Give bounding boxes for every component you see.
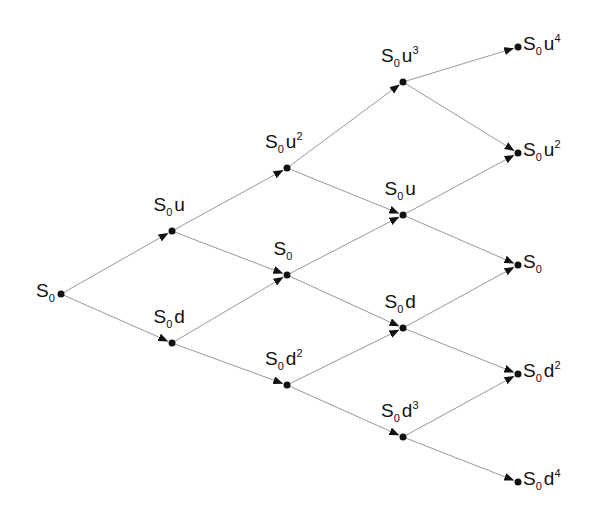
label-subscript: 0 (49, 292, 55, 304)
label-base: S (523, 360, 536, 381)
edge-arrow-n21-n31 (287, 217, 399, 275)
label-base: S (381, 400, 394, 421)
node-label-n44: S0d4 (523, 469, 561, 488)
label-subscript: 0 (397, 303, 403, 315)
edge-arrow-n31-n41 (403, 155, 514, 215)
label-base: S (265, 348, 278, 369)
label-base: S (385, 291, 398, 312)
tree-edges (61, 48, 514, 480)
node-label-n10: S0u (154, 195, 185, 214)
node-label-n33: S0d3 (381, 401, 419, 420)
label-base: S (385, 178, 398, 199)
label-subscript: 0 (397, 190, 403, 202)
label-base: S (274, 238, 287, 259)
label-subscript: 0 (536, 372, 542, 384)
edge-arrow-n20-n30 (287, 85, 399, 168)
node-label-n41: S0u2 (523, 140, 561, 159)
label-exponent: 4 (554, 467, 560, 479)
label-base: S (154, 194, 167, 215)
binomial-tree-canvas (0, 0, 607, 525)
node-label-n42: S0 (523, 252, 544, 271)
node-label-n30: S0u3 (381, 46, 419, 65)
label-exponent: 4 (554, 32, 560, 44)
label-subscript: 0 (394, 412, 400, 424)
label-variable: d (402, 400, 413, 421)
label-subscript: 0 (394, 57, 400, 69)
label-subscript: 0 (166, 206, 172, 218)
tree-nodes (58, 44, 522, 486)
label-base: S (265, 131, 278, 152)
label-subscript: 0 (166, 318, 172, 330)
edge-arrow-n30-n40 (403, 48, 513, 82)
label-variable: u (544, 139, 555, 160)
edge-arrow-n31-n42 (403, 215, 513, 263)
label-variable: u (544, 33, 555, 54)
edge-arrow-n22-n32 (287, 330, 399, 385)
label-variable: d (174, 306, 185, 327)
edge-arrow-n33-n43 (403, 376, 514, 437)
edge-arrow-n33-n44 (403, 437, 513, 480)
label-variable: d (544, 360, 555, 381)
label-variable: u (402, 45, 413, 66)
label-exponent: 2 (296, 347, 302, 359)
node-dot-n22 (284, 382, 291, 389)
label-base: S (523, 33, 536, 54)
node-dot-n42 (515, 262, 522, 269)
label-variable: d (405, 291, 416, 312)
node-label-n40: S0u4 (523, 34, 561, 53)
label-exponent: 2 (554, 138, 560, 150)
label-variable: u (405, 178, 416, 199)
label-variable: u (286, 131, 297, 152)
node-dot-n21 (284, 272, 291, 279)
edge-arrow-n21-n32 (287, 275, 398, 326)
node-label-n31: S0u (385, 179, 416, 198)
label-base: S (36, 280, 49, 301)
label-exponent: 3 (412, 399, 418, 411)
label-exponent: 2 (296, 130, 302, 142)
node-dot-n33 (400, 434, 407, 441)
label-base: S (381, 45, 394, 66)
node-dot-n30 (400, 79, 407, 86)
edge-arrow-n20-n31 (287, 168, 398, 213)
edge-arrow-n32-n42 (403, 267, 514, 328)
edge-arrow-n00-n11 (61, 294, 167, 341)
label-exponent: 2 (554, 359, 560, 371)
node-dot-n31 (400, 212, 407, 219)
node-label-n20: S0u2 (265, 132, 303, 151)
node-dot-n00 (58, 291, 65, 298)
node-dot-n41 (515, 150, 522, 157)
label-subscript: 0 (536, 151, 542, 163)
edge-arrow-n30-n41 (403, 82, 514, 150)
node-dot-n20 (284, 165, 291, 172)
label-exponent: 3 (412, 44, 418, 56)
node-dot-n32 (400, 325, 407, 332)
label-base: S (523, 251, 536, 272)
label-subscript: 0 (536, 480, 542, 492)
node-dot-n11 (169, 340, 176, 347)
node-dot-n44 (515, 479, 522, 486)
label-subscript: 0 (278, 143, 284, 155)
node-label-n11: S0d (154, 307, 185, 326)
label-variable: d (544, 468, 555, 489)
label-base: S (154, 306, 167, 327)
edge-arrow-n00-n10 (61, 233, 168, 294)
label-subscript: 0 (286, 250, 292, 262)
edge-arrow-n32-n43 (403, 328, 513, 372)
label-subscript: 0 (536, 45, 542, 57)
label-variable: d (286, 348, 297, 369)
edge-arrow-n10-n21 (172, 231, 282, 273)
node-dot-n10 (169, 228, 176, 235)
edge-arrow-n11-n21 (172, 278, 283, 343)
node-label-n22: S0d2 (265, 349, 303, 368)
node-label-n21: S0 (274, 239, 295, 258)
edge-arrow-n10-n20 (172, 170, 283, 231)
node-label-n00: S0 (36, 281, 57, 300)
node-dot-n43 (515, 371, 522, 378)
label-subscript: 0 (278, 360, 284, 372)
node-dot-n40 (515, 44, 522, 51)
label-base: S (523, 139, 536, 160)
label-subscript: 0 (536, 263, 542, 275)
node-label-n32: S0d (385, 292, 416, 311)
label-variable: u (174, 194, 185, 215)
label-base: S (523, 468, 536, 489)
